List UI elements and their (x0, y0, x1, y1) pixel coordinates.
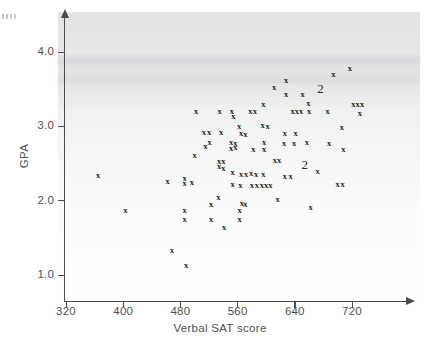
data-point-marker: x (336, 180, 340, 189)
data-point-marker: x (293, 129, 297, 138)
data-point-marker: x (183, 179, 187, 188)
duplicate-count-label: 2 (302, 157, 309, 170)
data-point-marker: x (249, 169, 253, 178)
data-point-marker: x (194, 107, 198, 116)
data-point-marker: x (222, 223, 226, 232)
data-point-marker: x (261, 170, 265, 179)
data-point-marker: x (307, 106, 311, 115)
data-point-marker: x (218, 106, 222, 115)
data-point-marker: x (358, 109, 362, 118)
data-point-marker: x (251, 144, 255, 153)
data-point-marker: x (341, 144, 345, 153)
data-point-marker: x (261, 121, 265, 130)
data-point-marker: x (308, 202, 312, 211)
data-point-marker: x (299, 106, 303, 115)
data-point-marker: x (348, 63, 352, 72)
data-point-marker: x (284, 90, 288, 99)
data-point-marker: x (216, 193, 220, 202)
data-point-marker: x (253, 106, 257, 115)
data-point-marker: x (202, 127, 206, 136)
data-point-marker: x (231, 112, 235, 121)
data-point-marker: x (326, 106, 330, 115)
data-point-marker: x (244, 170, 248, 179)
data-point-marker: x (250, 181, 254, 190)
data-point-marker: x (123, 206, 127, 215)
data-point-marker: x (230, 167, 234, 176)
data-point-marker: x (183, 214, 187, 223)
data-point-marker: x (272, 83, 276, 92)
data-point-marker: x (243, 130, 247, 139)
data-point-marker: x (316, 167, 320, 176)
data-point-marker: x (288, 172, 292, 181)
data-point-marker: x (341, 180, 345, 189)
data-point-marker: x (221, 157, 225, 166)
data-point-marker: x (238, 215, 242, 224)
scatterplot-figure: 1.02.03.04.0 320400480560640720 GPA Verb… (0, 0, 425, 346)
data-point-marker: x (282, 138, 286, 147)
data-point-marker: x (209, 199, 213, 208)
data-point-marker: x (277, 156, 281, 165)
data-point-marker: x (292, 138, 296, 147)
data-point-marker: x (327, 138, 331, 147)
data-point-marker: x (207, 128, 211, 137)
data-point-marker: x (283, 129, 287, 138)
data-point-layer: xxxxxxxxxxxxxxxxxxxxxxxxxxxxxxxxxxxxxxxx… (0, 0, 425, 346)
data-point-marker: x (209, 215, 213, 224)
data-point-marker: x (301, 90, 305, 99)
data-point-marker: x (254, 170, 258, 179)
data-point-marker: x (284, 76, 288, 85)
data-point-marker: x (331, 69, 335, 78)
data-point-marker: x (96, 170, 100, 179)
data-point-marker: x (230, 180, 234, 189)
data-point-marker: x (190, 178, 194, 187)
data-point-marker: x (233, 143, 237, 152)
data-point-marker: x (340, 123, 344, 132)
data-point-marker: x (238, 181, 242, 190)
data-point-marker: x (262, 144, 266, 153)
data-point-marker: x (283, 172, 287, 181)
data-point-marker: x (239, 170, 243, 179)
data-point-marker: x (193, 150, 197, 159)
data-point-marker: x (255, 181, 259, 190)
data-point-marker: x (266, 121, 270, 130)
data-point-marker: x (170, 246, 174, 255)
data-point-marker: x (184, 261, 188, 270)
data-point-marker: x (305, 138, 309, 147)
data-point-marker: x (261, 100, 265, 109)
data-point-marker: x (208, 138, 212, 147)
data-point-marker: x (165, 177, 169, 186)
data-point-marker: x (276, 195, 280, 204)
data-point-marker: x (268, 181, 272, 190)
duplicate-count-label: 2 (317, 81, 324, 94)
data-point-marker: x (219, 128, 223, 137)
